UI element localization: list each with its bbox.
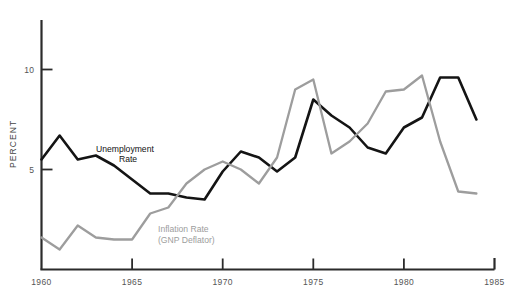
x-tick-label: 1970 [212,277,233,287]
y-tick-label: 10 [24,65,34,75]
x-tick-label: 1980 [394,277,415,287]
inflation-annotation: Inflation Rate (GNP Deflator) [158,224,215,245]
line-chart: 510 196019651970197519801985 PERCENT Une… [0,0,515,297]
x-tick-label: 1975 [303,277,324,287]
chart-background [0,0,515,297]
y-axis-title: PERCENT [8,120,18,168]
inflation-label-line2: (GNP Deflator) [158,235,215,245]
x-tick-label: 1960 [31,277,52,287]
unemployment-label-line1: Unemployment [96,144,154,154]
y-tick-label: 5 [29,165,34,175]
chart-container: 510 196019651970197519801985 PERCENT Une… [0,0,515,297]
inflation-label-line1: Inflation Rate [158,224,209,234]
x-tick-label: 1965 [122,277,143,287]
x-tick-label: 1985 [484,277,505,287]
unemployment-label-line2: Rate [119,154,137,164]
